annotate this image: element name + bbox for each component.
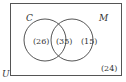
set-m-label: M	[98, 13, 109, 23]
intersection-count: (35)	[56, 37, 72, 46]
m-only-count: (15)	[81, 37, 97, 46]
set-c-label: C	[26, 13, 33, 23]
outside-count: (24)	[101, 64, 117, 73]
universe-label: U	[2, 69, 10, 79]
venn-diagram: C M U (26) (35) (15) (24)	[0, 0, 126, 82]
c-only-count: (26)	[33, 37, 49, 46]
